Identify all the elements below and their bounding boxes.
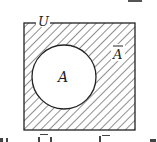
cropped-text-bottom (0, 134, 156, 142)
cropped-text-top (128, 0, 142, 2)
universe-label: U (38, 14, 50, 29)
venn-diagram: U A A (0, 0, 157, 142)
complement-label: A (112, 47, 122, 62)
set-a-label: A (56, 69, 68, 85)
